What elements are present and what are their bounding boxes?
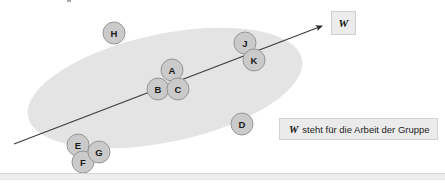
- group-diagram: HJKABCDEFG: [0, 0, 445, 183]
- member-circle: [103, 22, 125, 44]
- member-circle: [88, 141, 110, 163]
- member-circle: [147, 78, 169, 100]
- member-node-d: D: [231, 113, 253, 135]
- member-node-k: K: [243, 49, 265, 71]
- w-label-box: W: [331, 11, 356, 35]
- figure-canvas: HJKABCDEFG W W steht für die Arbeit der …: [0, 0, 445, 183]
- member-node-h: H: [103, 22, 125, 44]
- legend-symbol: W: [289, 124, 298, 135]
- member-node-c: C: [167, 78, 189, 100]
- member-node-b: B: [147, 78, 169, 100]
- legend-description: steht für die Arbeit der Gruppe: [302, 124, 429, 135]
- legend-caption: W steht für die Arbeit der Gruppe: [279, 118, 438, 140]
- member-node-g: G: [88, 141, 110, 163]
- bottom-divider-bar: [0, 173, 445, 180]
- member-circle: [243, 49, 265, 71]
- w-label-text: W: [339, 18, 349, 29]
- member-circle: [231, 113, 253, 135]
- member-circle: [167, 78, 189, 100]
